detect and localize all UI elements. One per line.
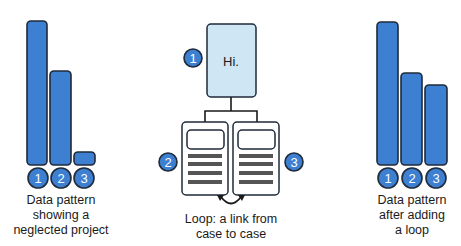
- right-bar-3: [425, 85, 447, 165]
- right-caption-line-2: after adding: [379, 208, 445, 222]
- hi-label: Hi.: [223, 54, 239, 69]
- case-card-right-header: [238, 130, 275, 149]
- right-caption-line-3: a loop: [395, 223, 429, 237]
- case-card-right-line-4: [239, 180, 273, 184]
- case-card-left-line-2: [188, 162, 222, 166]
- case-card-right-line-2: [239, 162, 273, 166]
- left-bar-2: [50, 71, 71, 165]
- left-bar-1: [27, 21, 47, 165]
- right-badge-3-label: 3: [432, 171, 439, 186]
- right-bar-1: [377, 22, 398, 165]
- left-badge-3-label: 3: [80, 171, 87, 186]
- left-caption-line-2: showing a: [33, 208, 89, 222]
- diagram-canvas: 1 2 3 Data pattern showing a neglected p…: [0, 0, 461, 246]
- right-badge-1-label: 1: [384, 171, 391, 186]
- left-bar-3: [74, 152, 95, 165]
- left-bar-chart: 1 2 3 Data pattern showing a neglected p…: [13, 21, 109, 237]
- case-card-right-line-3: [239, 171, 273, 175]
- loop-arrow-icon: [217, 195, 245, 204]
- case-card-left-header: [187, 130, 224, 149]
- center-badge-2-label: 2: [164, 155, 171, 170]
- center-badge-3-label: 3: [290, 155, 297, 170]
- left-caption-line-1: Data pattern: [27, 193, 96, 207]
- left-badge-2-label: 2: [57, 171, 64, 186]
- case-card-right-line-1: [239, 154, 273, 158]
- branch-connector: [205, 97, 257, 122]
- center-badge-1-label: 1: [189, 51, 196, 66]
- center-caption-line-1: Loop: a link from: [185, 212, 277, 226]
- center-diagram: Hi. 1 2 3 Loop: a link from case to case: [159, 24, 303, 241]
- right-caption-line-1: Data pattern: [378, 193, 447, 207]
- case-card-left-line-4: [188, 180, 222, 184]
- right-bar-2: [401, 73, 422, 165]
- left-caption-line-3: neglected project: [13, 223, 109, 237]
- case-card-left-line-1: [188, 154, 222, 158]
- right-badge-2-label: 2: [408, 171, 415, 186]
- left-badge-1-label: 1: [34, 171, 41, 186]
- right-bar-chart: 1 2 3 Data pattern after adding a loop: [377, 22, 447, 237]
- center-caption-line-2: case to case: [196, 227, 266, 241]
- case-card-left-line-3: [188, 171, 222, 175]
